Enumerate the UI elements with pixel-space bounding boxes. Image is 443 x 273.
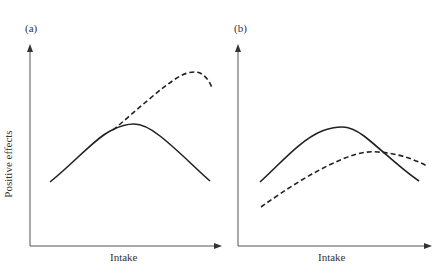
- panel-b-axes: [238, 48, 428, 246]
- panel-a-axes: [30, 48, 218, 246]
- panel-b-dashed-curve: [261, 152, 427, 207]
- y-axis-label: Positive effects: [2, 130, 14, 197]
- panel-a-label: (a): [25, 22, 37, 34]
- panel-b-label: (b): [234, 22, 247, 34]
- panel-a-solid-curve: [50, 124, 210, 182]
- panel-b-x-axis-label: Intake: [318, 251, 345, 263]
- panel-a-dashed-curve: [113, 72, 212, 130]
- panel-a-x-axis-label: Intake: [110, 251, 137, 263]
- figure-canvas: [0, 0, 443, 273]
